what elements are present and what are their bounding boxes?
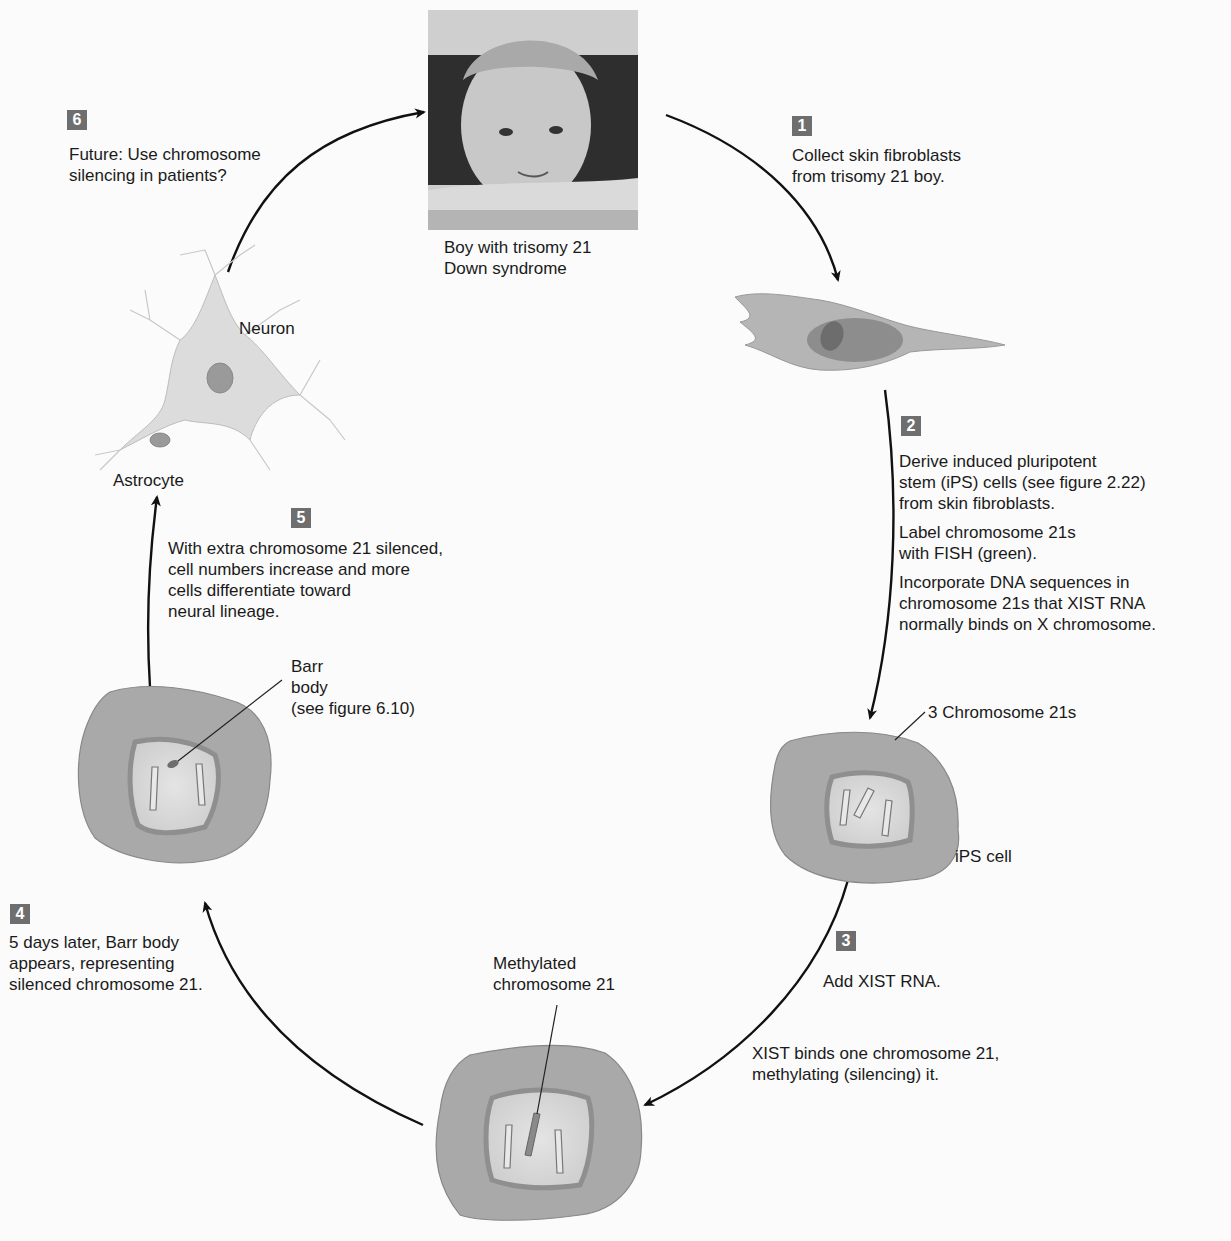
step-4-line1: 5 days later, Barr body	[9, 932, 203, 953]
step-2-derive-line2: stem (iPS) cells (see figure 2.22)	[899, 472, 1156, 493]
label-astrocyte: Astrocyte	[113, 470, 184, 491]
label-ips-cell: iPS cell	[955, 846, 1012, 867]
label-barr-line1: Barr	[291, 656, 415, 677]
step-6-line2: silencing in patients?	[69, 165, 261, 186]
step-6-line1: Future: Use chromosome	[69, 144, 261, 165]
label-barr-body: Barr body (see figure 6.10)	[291, 656, 415, 719]
photo-caption: Boy with trisomy 21 Down syndrome	[444, 237, 591, 279]
fibroblast-cell	[735, 294, 1005, 370]
step-2-label-line2: with FISH (green).	[899, 543, 1156, 564]
step-2-incorporate-line3: normally binds on X chromosome.	[899, 614, 1156, 635]
step-4-text: 5 days later, Barr body appears, represe…	[9, 932, 203, 995]
step-2-label-line1: Label chromosome 21s	[899, 522, 1156, 543]
arrow-photo-to-fibroblast	[666, 115, 838, 280]
label-barr-line3: (see figure 6.10)	[291, 698, 415, 719]
step-3-extra-line1: XIST binds one chromosome 21,	[752, 1043, 999, 1064]
step-4-line3: silenced chromosome 21.	[9, 974, 203, 995]
arrow-fibroblast-to-ips	[870, 390, 893, 718]
step-3-text: Add XIST RNA.	[823, 971, 941, 992]
boy-photo-illustration	[428, 10, 638, 230]
label-methylated-line1: Methylated	[493, 953, 615, 974]
arrow-methylated-to-barr	[205, 903, 423, 1125]
step-1-badge: 1	[792, 116, 812, 136]
step-1-text: Collect skin fibroblasts from trisomy 21…	[792, 145, 961, 187]
step-2-incorporate-line2: chromosome 21s that XIST RNA	[899, 593, 1156, 614]
step-1-line1: Collect skin fibroblasts	[792, 145, 961, 166]
step-6-text: Future: Use chromosome silencing in pati…	[69, 144, 261, 186]
ips-cell	[771, 712, 959, 883]
methylated-cell	[436, 1005, 642, 1220]
arrow-barr-to-neurons	[148, 497, 157, 687]
step-2-incorporate-line1: Incorporate DNA sequences in	[899, 572, 1156, 593]
label-neuron: Neuron	[239, 318, 295, 339]
step-5-line1: With extra chromosome 21 silenced,	[168, 538, 443, 559]
boy-photo	[428, 10, 638, 230]
step-5-line2: cell numbers increase and more	[168, 559, 443, 580]
label-barr-line2: body	[291, 677, 415, 698]
step-1-line2: from trisomy 21 boy.	[792, 166, 961, 187]
step-2-badge: 2	[901, 416, 921, 436]
step-5-badge: 5	[291, 508, 311, 528]
label-three-chromosomes: 3 Chromosome 21s	[928, 702, 1076, 723]
step-2-text: Derive induced pluripotent stem (iPS) ce…	[899, 451, 1156, 643]
step-2-paragraph-incorporate: Incorporate DNA sequences in chromosome …	[899, 572, 1156, 635]
step-4-line2: appears, representing	[9, 953, 203, 974]
step-4-badge: 4	[10, 904, 30, 924]
step-5-line4: neural lineage.	[168, 601, 443, 622]
label-methylated-chromosome: Methylated chromosome 21	[493, 953, 615, 995]
photo-caption-line1: Boy with trisomy 21	[444, 237, 591, 258]
photo-caption-line2: Down syndrome	[444, 258, 591, 279]
step-2-paragraph-derive: Derive induced pluripotent stem (iPS) ce…	[899, 451, 1156, 514]
step-2-derive-line1: Derive induced pluripotent	[899, 451, 1156, 472]
step-5-text: With extra chromosome 21 silenced, cell …	[168, 538, 443, 622]
label-methylated-line2: chromosome 21	[493, 974, 615, 995]
step-3-badge: 3	[836, 931, 856, 951]
step-2-derive-line3: from skin fibroblasts.	[899, 493, 1156, 514]
step-6-badge: 6	[67, 110, 87, 130]
barr-body-cell	[78, 680, 282, 863]
step-2-paragraph-label: Label chromosome 21s with FISH (green).	[899, 522, 1156, 564]
step-3-extra-line2: methylating (silencing) it.	[752, 1064, 999, 1085]
step-3-extra-text: XIST binds one chromosome 21, methylatin…	[752, 1043, 999, 1085]
neuron-astrocyte	[95, 245, 345, 470]
arrow-neurons-to-photo	[228, 112, 424, 272]
step-5-line3: cells differentiate toward	[168, 580, 443, 601]
